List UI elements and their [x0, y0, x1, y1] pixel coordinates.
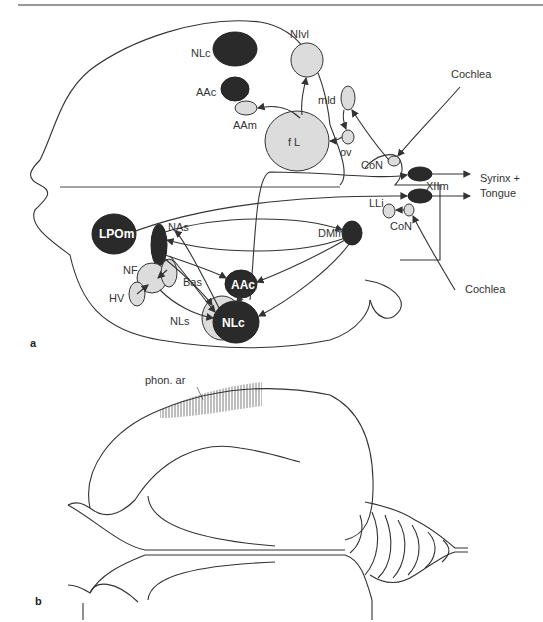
- figure-canvas: NLc NIvl AAc AAm mld f L ov CoN XIIm LLi…: [0, 0, 543, 622]
- label-NIvl: NIvl: [290, 28, 309, 40]
- nucleus-mld: [341, 86, 355, 110]
- label-AAm: AAm: [233, 119, 257, 131]
- nucleus-XIIm-upper: [408, 167, 432, 181]
- panel-a-diagram: [31, 21, 470, 348]
- label-HV: HV: [109, 292, 125, 304]
- arrow-DMm-to-NLc: [259, 243, 350, 316]
- phonation-area-hatch: [160, 382, 262, 418]
- label-LPOm: LPOm: [99, 227, 134, 241]
- nucleus-ov: [342, 130, 354, 144]
- nucleus-NAs: [151, 224, 167, 266]
- arrow-CoN-to-mld: [352, 110, 389, 160]
- arrow-cochlea-to-CoN-bottom: [413, 216, 455, 290]
- label-fL: f L: [288, 136, 300, 148]
- midline-lower: [145, 555, 372, 600]
- label-CoN-top: CoN: [361, 159, 383, 171]
- cerebellum-fold-7: [442, 540, 449, 562]
- label-NF: NF: [123, 264, 138, 276]
- label-ov: ov: [340, 146, 352, 158]
- brainstem-lower-loop: [365, 280, 401, 318]
- label-output-syrinx: Syrinx +: [480, 172, 520, 184]
- label-XIIm: XIIm: [426, 180, 449, 192]
- label-NLc-top: NLc: [191, 47, 211, 59]
- nucleus-LLi: [383, 204, 395, 218]
- nucleus-NLc-top: [213, 32, 257, 66]
- upper-hemisphere-sulcus: [90, 446, 300, 514]
- panel-b-diagram: [68, 382, 468, 620]
- label-cochlea-top: Cochlea: [451, 68, 492, 80]
- label-AAc-bottom: AAc: [231, 278, 255, 292]
- arrow-fL-to-NIvl: [301, 78, 306, 115]
- cerebellum-fold-3: [378, 515, 391, 578]
- arrow-cochlea-to-CoN-top: [398, 87, 460, 156]
- lower-hemisphere-outline: [68, 555, 145, 593]
- panel-label-b: b: [35, 595, 42, 607]
- nucleus-CoN-bottom: [404, 204, 414, 216]
- cerebellum-fold-2: [365, 512, 378, 575]
- nucleus-AAm: [235, 101, 257, 115]
- lower-hemisphere-curve: [90, 584, 138, 602]
- label-Bas: Bas: [183, 276, 202, 288]
- label-output-tongue: Tongue: [480, 187, 516, 199]
- label-NLc-bottom: NLc: [222, 316, 245, 330]
- cerebellum-outline: [365, 502, 468, 583]
- arrow-DMm-to-NAs: [167, 238, 345, 251]
- label-phonation-area: phon. ar: [145, 374, 186, 386]
- label-NLs: NLs: [170, 315, 190, 327]
- nucleus-DMm: [342, 221, 362, 245]
- lower-hemisphere-inner-line: [148, 562, 275, 600]
- label-AAc-top: AAc: [196, 86, 217, 98]
- nucleus-AAc-top: [221, 77, 249, 101]
- label-cochlea-bottom: Cochlea: [465, 283, 506, 295]
- arrow-mld-to-ov: [343, 110, 346, 129]
- lower-hemisphere-edges: [83, 600, 372, 620]
- label-CoN-bottom: CoN: [390, 220, 412, 232]
- arrow-NAs-to-DMm: [165, 219, 342, 232]
- cerebellum-fold-5: [408, 525, 419, 575]
- cerebellum-fold-4: [393, 520, 405, 578]
- arrow-DMm-to-AAc: [257, 240, 345, 282]
- upper-hemisphere-inner-line: [148, 496, 275, 546]
- label-NAs: NAs: [168, 221, 189, 233]
- midline-upper: [68, 505, 345, 550]
- nucleus-NIvl: [291, 43, 323, 77]
- panel-label-a: a: [30, 337, 37, 349]
- label-mld: mld: [318, 94, 336, 106]
- label-DMm: DMm: [318, 227, 344, 239]
- label-LLi: LLi: [369, 197, 384, 209]
- cerebellum-fold-1: [350, 515, 362, 553]
- nucleus-CoN-top: [388, 156, 400, 166]
